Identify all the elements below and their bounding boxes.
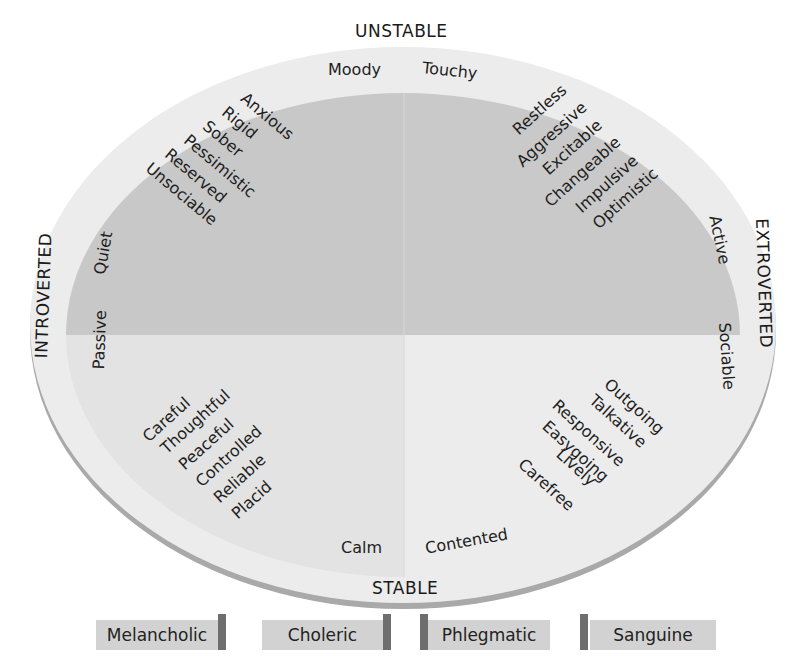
legend-box-melancholic: Melancholic [96,620,236,650]
legend-box-phlegmatic: Phlegmatic [420,620,550,650]
corner-label-passive: Passive [91,310,109,370]
box-side [420,614,428,650]
legend-box-choleric: Choleric [262,620,392,650]
legend-box-sanguine: Sanguine [580,620,716,650]
axis-label-stable: STABLE [372,580,438,597]
box-side [383,614,391,650]
legend-label-phlegmatic: Phlegmatic [428,620,550,650]
temperament-wheel [0,0,800,670]
box-side [580,614,588,650]
axis-label-extroverted: EXTROVERTED [753,218,775,349]
legend-label-choleric: Choleric [262,620,383,650]
corner-label-calm: Calm [341,540,382,556]
corner-label-sociable: Sociable [716,322,737,390]
axis-label-unstable: UNSTABLE [355,23,448,40]
legend-label-melancholic: Melancholic [96,620,218,650]
corner-label-moody: Moody [328,62,381,78]
temperament-diagram: UNSTABLE STABLE INTROVERTED EXTROVERTED … [0,0,800,670]
axis-label-introverted: INTROVERTED [33,232,54,358]
box-side [218,614,226,650]
legend-label-sanguine: Sanguine [590,620,716,650]
